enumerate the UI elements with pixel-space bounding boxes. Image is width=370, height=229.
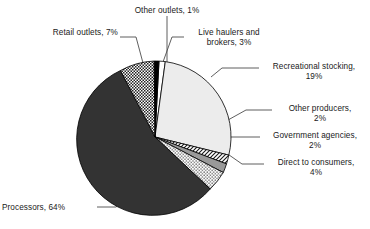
pie-label-retail-outlets: Retail outlets, 7% — [24, 28, 118, 38]
leader-line-live-haulers — [163, 37, 184, 62]
pie-label-government-agencies: Government agencies, 2% — [262, 131, 368, 152]
pie-label-direct-to-consumers: Direct to consumers, 4% — [266, 158, 366, 179]
pie-label-recreational-stocking: Recreational stocking, 19% — [262, 62, 366, 83]
pie-chart: Other outlets, 1% Retail outlets, 7% Liv… — [0, 0, 370, 229]
leader-line-retail-outlets — [120, 37, 143, 63]
leader-line-recreational — [211, 68, 259, 77]
pie-label-processors: Processors, 64% — [2, 203, 96, 213]
leader-line-other-producers — [228, 110, 272, 120]
pie-label-other-outlets: Other outlets, 1% — [113, 6, 221, 16]
pie-label-other-producers: Other producers, 2% — [274, 104, 366, 125]
pie-label-live-haulers-and-brokers: Live haulers and brokers, 3% — [186, 28, 272, 49]
